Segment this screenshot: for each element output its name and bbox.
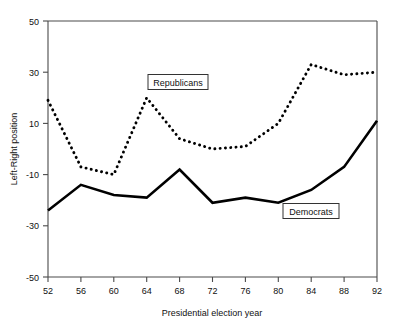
x-tick-label-72: 72 bbox=[207, 286, 217, 296]
democrats-label-text: Democrats bbox=[289, 207, 333, 217]
x-tick-labels: 52 56 60 64 68 72 76 80 84 88 92 bbox=[43, 286, 382, 296]
series-label-republicans: Republicans bbox=[148, 75, 208, 90]
x-tick-label-56: 56 bbox=[76, 286, 86, 296]
x-tick-label-60: 60 bbox=[109, 286, 119, 296]
y-axis-title: Left-Right position bbox=[9, 113, 19, 186]
axes-group bbox=[48, 21, 377, 277]
x-tick-label-68: 68 bbox=[175, 286, 185, 296]
x-tick-label-84: 84 bbox=[306, 286, 316, 296]
y-tick-label-neg10: -10 bbox=[26, 170, 39, 180]
republicans-label-text: Republicans bbox=[153, 78, 203, 88]
y-tick-label-neg50: -50 bbox=[26, 273, 39, 283]
x-tick-label-88: 88 bbox=[339, 286, 349, 296]
y-tick-marks bbox=[43, 21, 48, 277]
y-tick-labels: 50 30 10 -10 -30 -50 bbox=[26, 17, 39, 283]
x-tick-marks bbox=[48, 277, 377, 282]
y-tick-label-30: 30 bbox=[29, 68, 39, 78]
x-tick-label-52: 52 bbox=[43, 286, 53, 296]
line-chart: 50 30 10 -10 -30 -50 52 56 60 64 bbox=[0, 0, 393, 327]
x-tick-label-92: 92 bbox=[372, 286, 382, 296]
x-tick-label-80: 80 bbox=[273, 286, 283, 296]
series-label-democrats: Democrats bbox=[283, 204, 339, 219]
chart-figure: 50 30 10 -10 -30 -50 52 56 60 64 bbox=[0, 0, 393, 327]
series-line-democrats bbox=[48, 121, 377, 211]
y-tick-label-10: 10 bbox=[29, 119, 39, 129]
x-tick-label-64: 64 bbox=[142, 286, 152, 296]
y-tick-label-50: 50 bbox=[29, 17, 39, 27]
x-tick-label-76: 76 bbox=[240, 286, 250, 296]
y-tick-label-neg30: -30 bbox=[26, 221, 39, 231]
x-axis-title: Presidential election year bbox=[162, 308, 263, 318]
series-line-republicans bbox=[48, 65, 377, 175]
